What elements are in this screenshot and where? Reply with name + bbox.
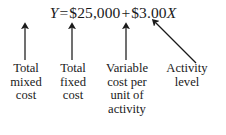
equation-variable-rate-term: $3.00 <box>131 4 166 21</box>
label-variable-cost-per-unit: Variable cost per unit of activity <box>97 62 157 116</box>
label-line: cost per <box>97 76 157 90</box>
cost-equation-figure: Y=$25,000+$3.00X Total mixed cost Total … <box>0 0 226 135</box>
label-total-mixed-cost: Total mixed cost <box>2 62 50 103</box>
label-line: cost <box>2 89 50 103</box>
equation-fixed-cost-term: $25,000 <box>69 4 120 21</box>
label-total-fixed-cost: Total fixed cost <box>49 62 97 103</box>
label-line: Total <box>2 62 50 76</box>
equation-plus-sign: + <box>120 4 131 21</box>
label-line: unit of <box>97 89 157 103</box>
equation-independent-variable: X <box>167 4 177 21</box>
label-line: Total <box>49 62 97 76</box>
label-line: fixed <box>49 76 97 90</box>
label-line: activity <box>97 103 157 117</box>
label-line: mixed <box>2 76 50 90</box>
label-line: Activity <box>156 62 218 76</box>
label-activity-level: Activity level <box>156 62 218 89</box>
equation-dependent-variable: Y <box>50 4 59 21</box>
cost-equation: Y=$25,000+$3.00X <box>0 4 226 22</box>
label-line: cost <box>49 89 97 103</box>
equation-equals-sign: = <box>59 4 70 21</box>
label-line: Variable <box>97 62 157 76</box>
arrow-to-activity-level <box>156 23 196 63</box>
labels-group: Total mixed cost Total fixed cost Variab… <box>0 62 226 135</box>
label-line: level <box>156 76 218 90</box>
